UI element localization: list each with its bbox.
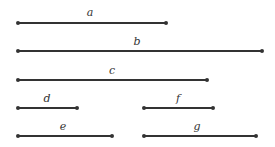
end-point <box>260 49 264 53</box>
segment-e: e <box>16 120 114 138</box>
segment-label: f <box>175 92 182 105</box>
segment-label: d <box>43 92 50 105</box>
start-point <box>16 134 20 138</box>
start-point <box>142 106 146 110</box>
segment-label: a <box>87 6 94 19</box>
segment-b: b <box>16 35 264 53</box>
start-point <box>16 106 20 110</box>
end-point <box>75 106 79 110</box>
segment-label: g <box>193 120 200 133</box>
end-point <box>211 106 215 110</box>
segment-label: c <box>109 64 115 77</box>
segment-label: e <box>60 120 67 133</box>
end-point <box>254 134 258 138</box>
end-point <box>164 21 168 25</box>
segment-f: f <box>142 92 215 110</box>
line-segments-diagram: abcdefg <box>0 0 275 147</box>
segment-d: d <box>16 92 79 110</box>
segment-a: a <box>16 6 168 25</box>
start-point <box>16 78 20 82</box>
start-point <box>142 134 146 138</box>
segment-c: c <box>16 64 209 82</box>
end-point <box>110 134 114 138</box>
segment-g: g <box>142 120 258 138</box>
start-point <box>16 21 20 25</box>
start-point <box>16 49 20 53</box>
end-point <box>205 78 209 82</box>
segment-label: b <box>133 35 140 48</box>
